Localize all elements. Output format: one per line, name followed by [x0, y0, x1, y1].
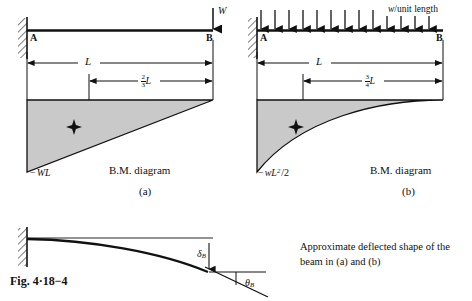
bm-caption-a: B.M. diagram [109, 165, 170, 176]
centroid-dimension-label-b: 3 4 L [365, 74, 375, 89]
centroid-dimension-label-a: 2 3 L [141, 74, 151, 89]
span-dimension-label-a: L [85, 56, 91, 67]
panel-b-group [248, 10, 443, 172]
centroid-fraction-a: 2 3 [141, 74, 146, 89]
panel-a-group [18, 8, 213, 172]
bending-moment-triangle-a [27, 100, 213, 172]
deflected-shape-description-line-2: beam in (a) and (b) [300, 257, 380, 268]
bm-caption-b: B.M. diagram [370, 165, 431, 176]
dimension-line-a-span [28, 56, 212, 70]
rotation-label-c: θB [245, 278, 254, 289]
bending-moment-parabola-b [257, 100, 443, 172]
span-dimension-label-b: L [316, 56, 322, 67]
panel-id-a: (a) [139, 186, 151, 197]
dimension-line-b-span [258, 56, 442, 70]
fixed-support-a-icon [18, 17, 27, 59]
udl-label-b: w/unit length [388, 5, 438, 15]
fixed-support-c-icon [18, 227, 27, 267]
figure-vector-canvas [0, 0, 472, 301]
panel-id-b: (b) [402, 186, 415, 197]
free-end-label-a: B [206, 33, 213, 43]
centroid-fraction-b: 3 4 [365, 74, 370, 89]
deflection-label-c: δB [197, 249, 206, 260]
moment-value-label-a: −WL [30, 168, 51, 178]
fixed-support-b-icon [248, 17, 257, 59]
deflected-beam-curve-c [27, 239, 208, 272]
beam-bending-figure: A B W L 2 3 L −WL B.M. diagram (a) A B w… [0, 0, 472, 301]
moment-value-label-b: −wL2/2 [258, 168, 289, 178]
point-load-label-a: W [218, 6, 226, 16]
free-end-label-b: B [436, 33, 443, 43]
figure-number-label: Fig. 4·18−4 [10, 275, 68, 287]
deflected-shape-description-line-1: Approximate deflected shape of the [300, 242, 450, 253]
support-label-a: A [30, 33, 37, 43]
support-label-b: A [260, 33, 267, 43]
